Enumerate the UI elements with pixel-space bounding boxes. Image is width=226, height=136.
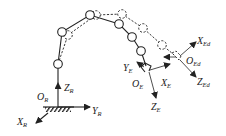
- x-ed-label: XEd: [197, 36, 210, 48]
- o-r-label: OR: [37, 92, 48, 104]
- z-e-axis: [149, 72, 156, 98]
- x-r-axis: [36, 113, 48, 123]
- y-r-label: YR: [92, 106, 102, 118]
- joint-1: [54, 60, 63, 69]
- z-e-label: ZE: [151, 102, 161, 114]
- desired-arm-dashed: [58, 10, 181, 64]
- current-arm-solid: [54, 11, 151, 83]
- robot-arm-diagram: [0, 0, 226, 136]
- o-e-label: OE: [132, 79, 143, 91]
- ground-base: [43, 107, 74, 112]
- joint-6: [137, 47, 146, 56]
- x-e-label: XE: [161, 78, 171, 90]
- joint-4: [115, 20, 124, 29]
- z-ed-label: ZEd: [197, 77, 210, 89]
- o-ed-label: OEd: [186, 56, 200, 68]
- z-r-label: ZR: [64, 83, 74, 95]
- joint-5: [128, 33, 137, 42]
- joint-3: [86, 11, 95, 20]
- joint-2: [58, 28, 67, 37]
- y-e-label: YE: [123, 63, 133, 75]
- x-e-axis: [150, 64, 170, 70]
- x-r-label: XR: [17, 117, 27, 129]
- x-ed-axis: [180, 42, 196, 56]
